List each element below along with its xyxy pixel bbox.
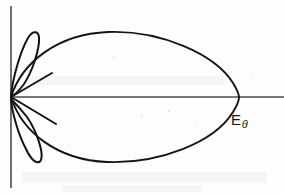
pattern-plot-canvas [0, 0, 284, 194]
field-symbol: E [231, 111, 241, 128]
radiation-pattern-figure: Eθ [0, 0, 284, 194]
upper-null-ray [11, 73, 52, 97]
field-subscript-theta: θ [242, 118, 248, 130]
field-component-label: Eθ [231, 112, 248, 130]
lower-null-ray [11, 97, 56, 124]
